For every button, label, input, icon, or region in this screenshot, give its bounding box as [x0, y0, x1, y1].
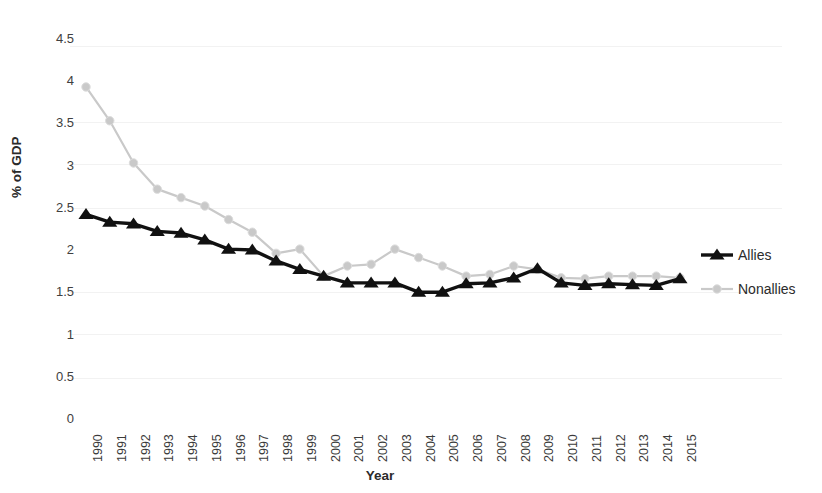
x-axis-tick-label: 2003 [401, 434, 414, 462]
legend-label: Allies [738, 247, 771, 263]
legend-entry-allies[interactable]: Allies [700, 238, 820, 272]
legend-entry-nonallies[interactable]: Nonallies [700, 272, 820, 306]
x-axis-tick-label: 2006 [472, 434, 485, 462]
x-axis-tick-label: 2011 [591, 435, 604, 462]
x-axis-tick-label: 2013 [638, 434, 651, 462]
legend-label: Nonallies [738, 281, 796, 297]
x-axis-tick-label: 1992 [140, 434, 153, 462]
triangle-marker-icon [700, 247, 734, 263]
x-axis-tick-label: 1997 [258, 434, 271, 462]
chart-legend: AlliesNonallies [700, 238, 820, 306]
x-axis-tick-label: 2014 [662, 434, 675, 462]
x-axis-tick-label: 1999 [306, 434, 319, 462]
x-axis-tick-labels: 1990199119921993199419951996199719981999… [0, 0, 822, 493]
x-axis-tick-label: 2002 [377, 434, 390, 462]
x-axis-tick-label: 1991 [116, 434, 129, 462]
x-axis-tick-label: 2004 [425, 434, 438, 462]
x-axis-tick-label: 2009 [543, 434, 556, 462]
x-axis-tick-label: 1990 [92, 434, 105, 462]
x-axis-tick-label: 2005 [448, 434, 461, 462]
x-axis-tick-label: 2015 [686, 434, 699, 462]
x-axis-title: Year [0, 468, 760, 483]
x-axis-tick-label: 1994 [187, 434, 200, 462]
x-axis-tick-label: 2000 [330, 434, 343, 462]
x-axis-tick-label: 2001 [353, 434, 366, 462]
line-chart: 4.543.532.521.510.50 % of GDP 1990199119… [0, 0, 822, 493]
circle-marker-icon [700, 281, 734, 297]
x-axis-tick-label: 2012 [615, 434, 628, 462]
x-axis-tick-label: 1998 [282, 434, 295, 462]
x-axis-tick-label: 2010 [567, 434, 580, 462]
x-axis-tick-label: 2008 [520, 434, 533, 462]
x-axis-tick-label: 2007 [496, 434, 509, 462]
x-axis-tick-label: 1996 [235, 434, 248, 462]
x-axis-tick-label: 1995 [211, 434, 224, 462]
x-axis-tick-label: 1993 [163, 434, 176, 462]
